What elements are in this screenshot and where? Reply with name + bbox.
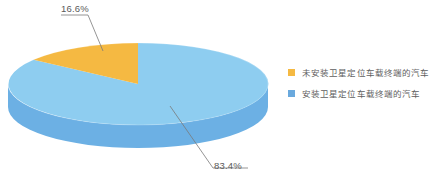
figure-caption-cutoff [0,181,435,185]
pie-label-orange-percent: 16.6% [61,3,89,14]
pie-chart-figure: 16.6% 83.4% 未安装卫星定位车载终端的汽车 安装卫星定位车载终端的汽车 [0,0,435,185]
legend-item-unequipped[interactable]: 未安装卫星定位车载终端的汽车 [288,66,429,78]
pie-label-blue-percent: 83.4% [214,160,242,171]
legend-label-unequipped: 未安装卫星定位车载终端的汽车 [302,66,429,78]
legend-label-equipped: 安装卫星定位车载终端的汽车 [302,87,420,99]
legend-swatch-orange [288,69,295,76]
chart-legend: 未安装卫星定位车载终端的汽车 安装卫星定位车载终端的汽车 [288,66,429,99]
legend-swatch-blue [288,90,295,97]
legend-item-equipped[interactable]: 安装卫星定位车载终端的汽车 [288,87,429,99]
